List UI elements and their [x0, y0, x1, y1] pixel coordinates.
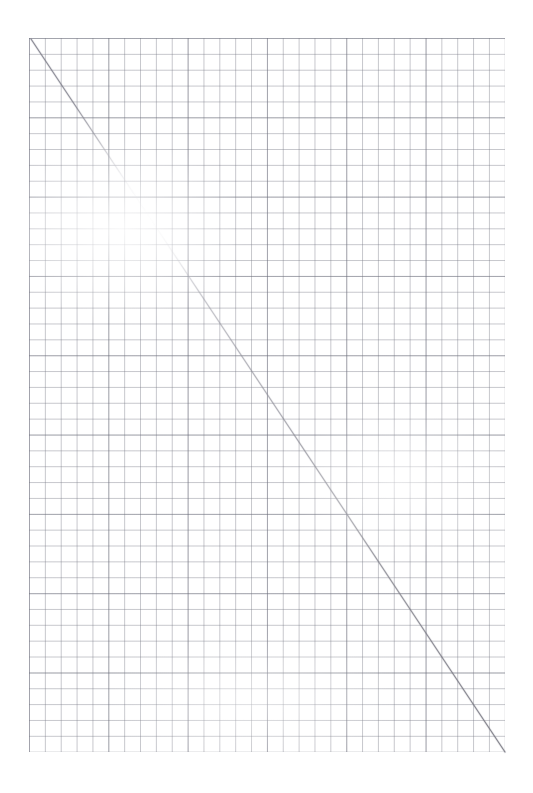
- page-canvas: [0, 0, 533, 793]
- graph-paper-grid: [29, 38, 505, 752]
- graph-paper-major-gridlines: [29, 38, 505, 752]
